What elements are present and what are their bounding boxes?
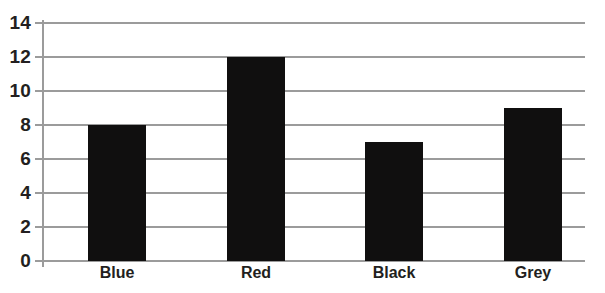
y-tick-label-4: 4 — [0, 183, 31, 202]
x-tick-label-grey: Grey — [473, 265, 593, 281]
y-tick-label-0: 0 — [0, 251, 31, 270]
x-tick-label-red: Red — [196, 265, 316, 281]
y-tick-label-14: 14 — [0, 13, 31, 32]
y-tick-label-8: 8 — [0, 115, 31, 134]
y-tick-label-2: 2 — [0, 217, 31, 236]
y-tick-label-12: 12 — [0, 47, 31, 66]
y-tick-label-6: 6 — [0, 149, 31, 168]
gridline-14 — [42, 22, 585, 24]
y-tick-label-10: 10 — [0, 81, 31, 100]
gridline-12 — [42, 56, 585, 58]
gridline-10 — [42, 90, 585, 92]
bar-red — [227, 57, 285, 261]
bar-black — [365, 142, 423, 261]
plot-area — [42, 23, 585, 261]
x-tick-label-blue: Blue — [57, 265, 177, 281]
bar-grey — [504, 108, 562, 261]
bar-chart: 02468101214 BlueRedBlackGrey — [0, 0, 605, 293]
bar-blue — [88, 125, 146, 261]
x-tick-label-black: Black — [334, 265, 454, 281]
